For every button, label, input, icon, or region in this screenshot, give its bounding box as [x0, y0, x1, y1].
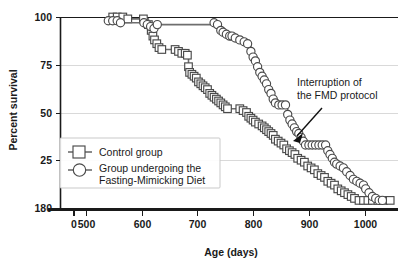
x-tick-label-0: 0: [71, 218, 77, 230]
y-tick-label-25: 25: [40, 154, 52, 166]
x-axis-title: Age (days): [204, 246, 258, 258]
chart-legend: Control group Group undergoing the Fasti…: [60, 138, 220, 188]
data-point-square: [184, 51, 192, 59]
square-marker-icon: [73, 146, 85, 158]
x-tick-label-600: 600: [134, 218, 152, 230]
data-point-circle: [116, 19, 124, 27]
chart-canvas: Interruption of the FMD protocol Control…: [0, 0, 402, 264]
y-tick-label-75: 75: [40, 59, 52, 71]
legend-item-control-group[interactable]: Control group: [68, 146, 163, 158]
y-tick-label-100: 100: [34, 11, 52, 23]
annotation-line-2: the FMD protocol: [297, 89, 378, 101]
data-point-circle: [153, 21, 161, 29]
data-point-circle: [244, 40, 252, 48]
data-point-square: [386, 197, 394, 205]
data-point-square: [224, 105, 232, 113]
data-point-circle: [281, 101, 289, 109]
annotation-line-1: Interruption of: [297, 76, 362, 88]
x-tick-label-800: 800: [245, 218, 263, 230]
legend-label-fmd-line1: Group undergoing the: [99, 162, 201, 174]
y-axis-title: Percent survival: [7, 69, 19, 150]
y-tick-label-180: 180: [34, 202, 52, 214]
y-tick-label-50: 50: [40, 107, 52, 119]
x-tick-label-700: 700: [189, 218, 207, 230]
data-point-circle: [378, 196, 386, 204]
circle-marker-icon: [73, 164, 85, 176]
data-point-square: [124, 15, 132, 23]
legend-label-control-group: Control group: [99, 146, 163, 158]
data-point-square: [158, 46, 166, 54]
x-tick-label-500: 500: [78, 218, 96, 230]
survival-chart-figure: Interruption of the FMD protocol Control…: [0, 0, 402, 264]
legend-label-fmd-line2: Fasting-Mimicking Diet: [99, 174, 205, 186]
x-tick-label-900: 900: [301, 218, 319, 230]
x-tick-label-1000: 1000: [354, 218, 378, 230]
